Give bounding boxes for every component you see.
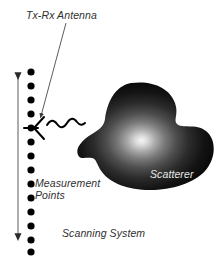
- label-measurement-line2: Points: [35, 189, 65, 201]
- dipole-antenna-symbol: [24, 117, 44, 139]
- label-measurement-line1: Measurement: [35, 177, 100, 189]
- diagram-graphics: [0, 0, 219, 257]
- figure-canvas: Tx-Rx Antenna MeasurementPoints Scanning…: [0, 0, 219, 257]
- label-scatterer: Scatterer: [150, 169, 194, 181]
- label-measurement-points: MeasurementPoints: [35, 178, 100, 201]
- radiated-wave-icon: [47, 119, 85, 128]
- label-tx-rx-antenna: Tx-Rx Antenna: [26, 10, 97, 22]
- antenna-leader-line: [41, 23, 66, 116]
- measurement-point-dots: [27, 68, 34, 255]
- label-scanning-system: Scanning System: [62, 228, 145, 240]
